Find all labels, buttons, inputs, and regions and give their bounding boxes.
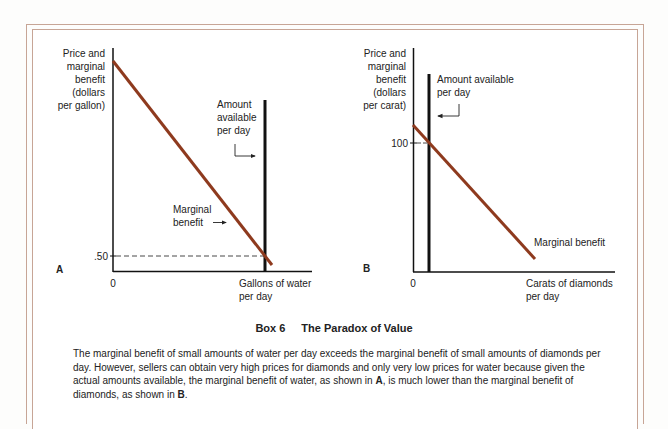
chart-b: Price and marginal benefit (dollars per … <box>363 48 615 302</box>
svg-text:Gallons of water: Gallons of water <box>239 278 312 289</box>
chart-b-panel-letter: B <box>363 263 370 274</box>
svg-text:per carat): per carat) <box>363 100 406 111</box>
svg-text:per day: per day <box>217 125 250 136</box>
svg-text:per gallon): per gallon) <box>58 100 105 111</box>
chart-a-marginal-benefit-curve <box>113 61 272 265</box>
svg-text:(dollars: (dollars <box>72 87 105 98</box>
box-number: Box 6 <box>255 322 285 334</box>
chart-a-amount-label: Amount available per day <box>217 99 257 136</box>
chart-b-origin: 0 <box>410 278 416 289</box>
chart-b-tick-label: 100 <box>391 138 408 149</box>
svg-text:marginal: marginal <box>368 61 406 72</box>
svg-text:Price and: Price and <box>364 48 406 59</box>
svg-text:per day: per day <box>437 87 470 98</box>
chart-b-marginal-benefit-curve <box>413 125 535 259</box>
svg-text:(dollars: (dollars <box>373 87 406 98</box>
chart-a-mb-label: Marginal benefit <box>173 204 211 228</box>
svg-text:Carats of diamonds: Carats of diamonds <box>526 278 613 289</box>
svg-text:Marginal: Marginal <box>173 204 211 215</box>
chart-b-mb-label: Marginal benefit <box>534 237 605 248</box>
svg-text:Amount: Amount <box>217 99 252 110</box>
svg-text:per day: per day <box>526 291 559 302</box>
chart-a-amount-arrow-icon <box>235 144 255 156</box>
chart-b-ylabel: Price and marginal benefit (dollars per … <box>363 48 406 111</box>
svg-text:available: available <box>217 112 257 123</box>
chart-a-origin: 0 <box>110 278 116 289</box>
box-title-text: The Paradox of Value <box>301 322 412 334</box>
svg-text:Amount available: Amount available <box>437 74 514 85</box>
svg-text:per day: per day <box>239 291 272 302</box>
chart-a-ylabel: Price and marginal benefit (dollars per … <box>58 48 105 111</box>
chart-a-xlabel: Gallons of water per day <box>239 278 312 302</box>
chart-b-amount-label: Amount available per day <box>437 74 514 98</box>
box-title: Box 6The Paradox of Value <box>0 322 668 334</box>
svg-text:benefit: benefit <box>173 217 203 228</box>
svg-text:Price and: Price and <box>63 48 105 59</box>
svg-text:marginal: marginal <box>67 61 105 72</box>
svg-text:benefit: benefit <box>376 74 406 85</box>
chart-b-xlabel: Carats of diamonds per day <box>526 278 613 302</box>
chart-a-tick-label: .50 <box>94 251 108 262</box>
caption-ref-a: A <box>375 375 382 386</box>
caption-paragraph: The marginal benefit of small amounts of… <box>73 347 613 401</box>
chart-a-panel-letter: A <box>56 264 63 275</box>
caption-ref-b: B <box>178 389 185 400</box>
chart-b-amount-arrow-icon <box>438 104 459 116</box>
caption-text: . <box>185 389 188 400</box>
chart-a: Price and marginal benefit (dollars per … <box>56 48 312 302</box>
svg-text:benefit: benefit <box>75 74 105 85</box>
